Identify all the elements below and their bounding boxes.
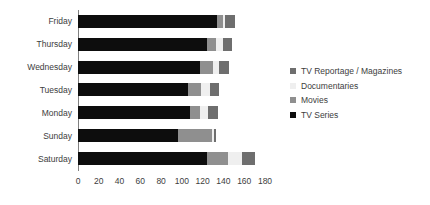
bar-row — [78, 124, 265, 147]
bar-segment[interactable] — [200, 61, 214, 74]
bar-segment[interactable] — [225, 15, 234, 28]
x-axis-tick-label: 40 — [115, 176, 124, 186]
category-label: Thursday — [0, 39, 72, 49]
bar-row — [78, 79, 265, 102]
x-axis-tick-label: 80 — [156, 176, 165, 186]
bar-segment[interactable] — [201, 83, 210, 96]
bar-segment[interactable] — [78, 83, 188, 96]
x-axis-tick-label: 60 — [136, 176, 145, 186]
bar-segment[interactable] — [190, 106, 199, 119]
bar-segment[interactable] — [208, 106, 218, 119]
bar-segment[interactable] — [210, 83, 219, 96]
bar-segment[interactable] — [78, 15, 217, 28]
legend-label: Documentaries — [301, 81, 358, 91]
legend-item[interactable]: Movies — [290, 93, 430, 108]
bar-segment[interactable] — [178, 129, 212, 142]
plot-area — [78, 10, 265, 170]
x-axis-tick-label: 120 — [196, 176, 210, 186]
stacked-bar[interactable] — [78, 152, 255, 165]
stacked-bar[interactable] — [78, 83, 219, 96]
chart-legend: TV Reportage / MagazinesDocumentariesMov… — [290, 64, 430, 122]
bar-segment[interactable] — [216, 38, 223, 51]
category-label: Sunday — [0, 131, 72, 141]
x-axis-tick-label: 140 — [216, 176, 230, 186]
legend-item[interactable]: Documentaries — [290, 79, 430, 94]
stacked-bar[interactable] — [78, 61, 229, 74]
stacked-bar[interactable] — [78, 38, 232, 51]
bar-row — [78, 147, 265, 170]
bar-row — [78, 101, 265, 124]
bar-segment[interactable] — [78, 61, 200, 74]
bar-segment[interactable] — [200, 106, 208, 119]
legend-item[interactable]: TV Reportage / Magazines — [290, 64, 430, 79]
legend-label: Movies — [301, 95, 328, 105]
legend-swatch-icon — [290, 68, 296, 74]
x-axis-tick-label: 160 — [237, 176, 251, 186]
x-axis-tick-label: 100 — [175, 176, 189, 186]
legend-item[interactable]: TV Series — [290, 108, 430, 123]
bar-segment[interactable] — [207, 38, 216, 51]
legend-swatch-icon — [290, 83, 296, 89]
category-label: Friday — [0, 16, 72, 26]
legend-swatch-icon — [290, 112, 296, 118]
legend-label: TV Reportage / Magazines — [301, 66, 402, 76]
bar-row — [78, 33, 265, 56]
category-label: Saturday — [0, 154, 72, 164]
bar-segment[interactable] — [188, 83, 200, 96]
bar-segment[interactable] — [207, 152, 228, 165]
category-label: Wednesday — [0, 62, 72, 72]
bar-segment[interactable] — [214, 129, 216, 142]
stacked-bar-chart: FridayThursdayWednesdayTuesdayMondaySund… — [0, 0, 430, 205]
x-axis-tick-label: 20 — [94, 176, 103, 186]
bar-segment[interactable] — [78, 106, 190, 119]
bar-segment[interactable] — [78, 38, 207, 51]
category-label: Tuesday — [0, 85, 72, 95]
stacked-bar[interactable] — [78, 106, 218, 119]
bar-segment[interactable] — [78, 129, 178, 142]
bar-row — [78, 56, 265, 79]
bar-row — [78, 10, 265, 33]
legend-label: TV Series — [301, 110, 338, 120]
bar-segment[interactable] — [219, 61, 228, 74]
bar-segment[interactable] — [228, 152, 243, 165]
bar-segment[interactable] — [78, 152, 207, 165]
category-label: Monday — [0, 108, 72, 118]
bar-segment[interactable] — [242, 152, 254, 165]
stacked-bar[interactable] — [78, 129, 216, 142]
legend-swatch-icon — [290, 97, 296, 103]
x-axis-tick-group: 020406080100120140160180 — [78, 176, 265, 190]
x-axis-tick-label: 180 — [258, 176, 272, 186]
bar-segment[interactable] — [223, 38, 231, 51]
stacked-bar[interactable] — [78, 15, 235, 28]
x-axis-tick-label: 0 — [76, 176, 81, 186]
